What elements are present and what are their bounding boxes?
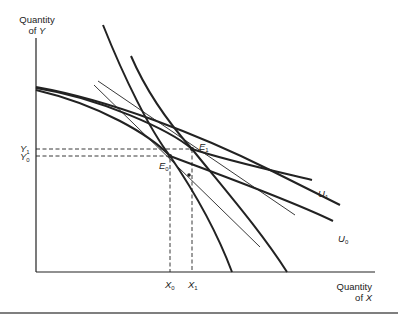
- x-axis-title-line2: of X: [320, 292, 372, 303]
- tick-y0: Y0: [20, 151, 30, 166]
- steep-curve-left: [103, 25, 232, 272]
- label-u1: U1: [318, 188, 328, 203]
- point-e1: [190, 147, 194, 151]
- x-axis-title-line1: Quantity: [320, 281, 372, 292]
- y-axis-title-line1: Quantity: [14, 14, 60, 25]
- steep-curve-right: [131, 56, 287, 272]
- tick-x0: X0: [165, 279, 175, 294]
- label-e1: E1: [199, 141, 209, 156]
- point-intersection: [187, 173, 191, 177]
- tick-x1: X1: [188, 279, 198, 294]
- label-e0: E0: [159, 160, 169, 175]
- point-e0: [168, 154, 172, 158]
- label-u0: U0: [338, 233, 348, 248]
- x-axis-title: Quantity of X: [320, 281, 372, 303]
- y-axis-title-line2: of Y: [14, 25, 60, 36]
- u0-curve: [36, 90, 333, 221]
- diagram-canvas: [0, 0, 398, 319]
- price-line-1: [98, 81, 295, 215]
- price-line-2: [94, 85, 260, 247]
- y-axis-title: Quantity of Y: [14, 14, 60, 36]
